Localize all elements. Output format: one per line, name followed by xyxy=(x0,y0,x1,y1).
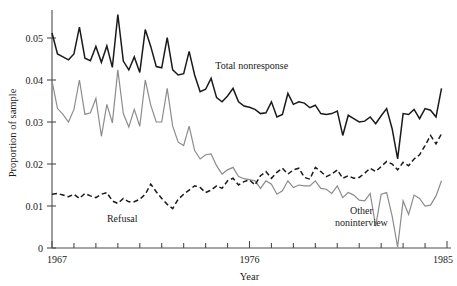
y-axis-title: Proportion of sample xyxy=(7,88,18,177)
series-line-refusal xyxy=(52,134,442,209)
x-tick-label-1: 1976 xyxy=(240,254,260,265)
x-tick-label-2: 1985 xyxy=(433,254,453,265)
y-tick-label-2: 0.02 xyxy=(26,159,44,170)
y-tick-label-4: 0.04 xyxy=(26,75,44,86)
y-axis-ticks: 00.010.020.030.040.05 xyxy=(26,33,57,254)
x-axis-title: Year xyxy=(240,271,260,282)
y-tick-label-5: 0.05 xyxy=(26,33,44,44)
series-line-total-nonresponse xyxy=(52,14,442,158)
y-tick-label-0: 0 xyxy=(38,243,43,254)
chart-figure: 00.010.020.030.040.05 196719761985 Total… xyxy=(0,0,457,286)
annotation-total-nonresponse: Total nonresponse xyxy=(215,60,288,71)
annotation-refusal: Refusal xyxy=(107,213,138,224)
x-axis-ticks: 196719761985 xyxy=(47,241,453,265)
line-chart-svg: 00.010.020.030.040.05 196719761985 Total… xyxy=(0,0,457,286)
series-annotations: Total nonresponseOthernoninterviewRefusa… xyxy=(107,60,389,228)
annotation-other-noninterview-line2: noninterview xyxy=(335,217,389,228)
x-tick-label-0: 1967 xyxy=(47,254,67,265)
annotation-other-noninterview-line1: Other xyxy=(350,205,373,216)
y-tick-label-1: 0.01 xyxy=(26,201,44,212)
y-tick-label-3: 0.03 xyxy=(26,117,44,128)
